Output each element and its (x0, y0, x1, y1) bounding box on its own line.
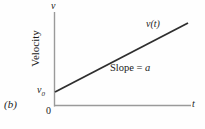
intercept-subscript: 0 (41, 90, 45, 98)
y-axis-variable-label: v (51, 1, 55, 11)
y-intercept-label: v0 (37, 85, 45, 98)
velocity-line (55, 23, 188, 92)
x-axis-variable-label: t (192, 99, 195, 109)
velocity-time-graph-figure: (b) v t Velocity v0 0 v(t) Slope = a (0, 0, 205, 129)
curve-label-v-of-t: v(t) (146, 19, 160, 29)
slope-annotation: Slope = a (110, 63, 150, 74)
origin-label: 0 (46, 106, 51, 116)
slope-symbol: a (145, 62, 150, 73)
slope-text: Slope = (110, 62, 145, 73)
panel-letter-label: (b) (4, 99, 17, 110)
y-axis-title-velocity: Velocity (30, 9, 41, 89)
